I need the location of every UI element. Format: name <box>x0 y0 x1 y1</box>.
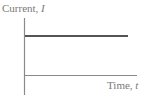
x-axis-label: Time, t <box>107 79 138 91</box>
current-vs-time-chart: Current, I Time, t <box>0 0 144 112</box>
x-axis-label-text: Time, <box>107 79 135 91</box>
plot-area <box>0 0 144 112</box>
x-axis-label-variable: t <box>135 79 138 91</box>
